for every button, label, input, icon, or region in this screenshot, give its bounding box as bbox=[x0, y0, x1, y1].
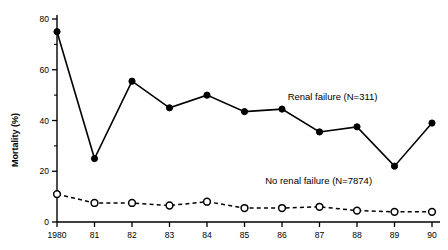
y-tick-label: 20 bbox=[40, 166, 50, 176]
x-tick-label: 89 bbox=[390, 230, 400, 240]
series-renal-failure bbox=[54, 29, 435, 170]
data-point-marker bbox=[429, 120, 435, 126]
data-point-marker bbox=[204, 198, 211, 205]
y-tick-label: 80 bbox=[40, 14, 50, 24]
data-point-marker bbox=[429, 208, 436, 215]
data-point-marker bbox=[54, 29, 60, 35]
data-point-marker bbox=[316, 129, 322, 135]
data-point-marker bbox=[354, 207, 361, 214]
data-point-marker bbox=[129, 78, 135, 84]
data-point-marker bbox=[391, 163, 397, 169]
y-axis-title-text: Mortality (%) bbox=[10, 113, 20, 167]
data-point-marker bbox=[316, 203, 323, 210]
x-tick-label: 87 bbox=[315, 230, 325, 240]
data-point-marker bbox=[241, 205, 248, 212]
data-point-marker bbox=[91, 200, 98, 207]
y-tick-label: 60 bbox=[40, 65, 50, 75]
x-tick-label: 81 bbox=[90, 230, 100, 240]
series-layer bbox=[54, 29, 436, 216]
series-label-no-renal-failure: No renal failure (N=7874) bbox=[265, 175, 372, 186]
data-point-marker bbox=[241, 109, 247, 115]
series-no-renal-failure bbox=[54, 191, 436, 216]
series-annotations: Renal failure (N=311)No renal failure (N… bbox=[265, 91, 377, 186]
x-tick-label: 84 bbox=[202, 230, 212, 240]
x-tick-label: 83 bbox=[165, 230, 175, 240]
data-point-marker bbox=[54, 191, 61, 198]
mortality-line-chart: Mortality (%) 020406080 1980818283848586… bbox=[0, 0, 448, 250]
data-point-marker bbox=[354, 124, 360, 130]
x-tick-label: 88 bbox=[352, 230, 362, 240]
data-point-marker bbox=[279, 205, 286, 212]
series-label-renal-failure: Renal failure (N=311) bbox=[288, 91, 378, 102]
x-tick-label: 86 bbox=[277, 230, 287, 240]
data-point-marker bbox=[391, 208, 398, 215]
y-tick-label: 40 bbox=[40, 116, 50, 126]
data-point-marker bbox=[91, 155, 97, 161]
data-point-marker bbox=[279, 106, 285, 112]
x-axis-ticks: 198081828384858687888990 bbox=[48, 222, 437, 240]
y-axis-title: Mortality (%) bbox=[10, 113, 20, 167]
x-tick-label: 1980 bbox=[48, 230, 67, 240]
chart-figure: Mortality (%) 020406080 1980818283848586… bbox=[0, 0, 448, 250]
x-tick-label: 85 bbox=[240, 230, 250, 240]
data-point-marker bbox=[166, 202, 173, 209]
x-tick-label: 82 bbox=[127, 230, 137, 240]
data-point-marker bbox=[166, 105, 172, 111]
data-point-marker bbox=[204, 92, 210, 98]
y-tick-label: 0 bbox=[44, 217, 49, 227]
data-point-marker bbox=[129, 200, 136, 207]
x-tick-label: 90 bbox=[427, 230, 437, 240]
